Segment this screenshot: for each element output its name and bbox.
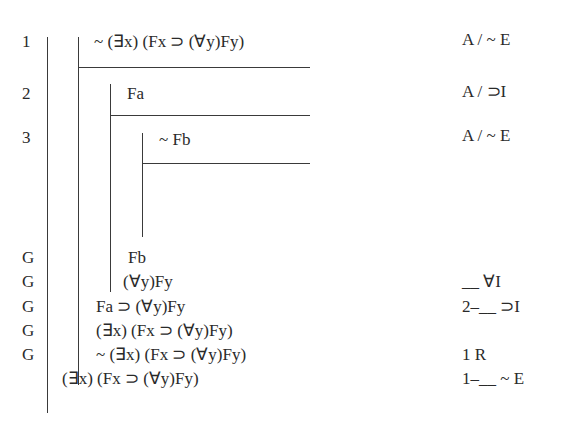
line-number: 2 — [22, 84, 36, 104]
line-number: 3 — [22, 128, 36, 148]
formula: Fa — [127, 84, 144, 104]
conclusion-formula: (∃x) (Fx ⊃ (∀y)Fy) — [62, 369, 199, 389]
justification: A / ⊃I — [462, 82, 506, 102]
formula: ~ Fb — [159, 130, 190, 150]
line-number: G — [22, 297, 36, 317]
formula: ~ (∃x) (Fx ⊃ (∀y)Fy) — [94, 32, 244, 52]
scope-line-sub3 — [142, 133, 143, 237]
justification: A / ~ E — [462, 126, 510, 146]
formula: (∀y)Fy — [123, 272, 173, 292]
line-number: G — [22, 272, 36, 292]
justification: A / ~ E — [462, 30, 510, 50]
justification: 1 R — [462, 345, 486, 365]
line-number: 1 — [22, 32, 36, 52]
formula: Fb — [128, 248, 146, 268]
line-number: G — [22, 248, 36, 268]
scope-line-main — [47, 37, 48, 413]
formula: Fa ⊃ (∀y)Fy — [96, 297, 185, 317]
assumption-bar-3 — [142, 163, 310, 164]
scope-line-sub1 — [78, 37, 79, 385]
justification: 2–__ ⊃I — [462, 297, 520, 317]
justification: __ ∀I — [462, 272, 501, 292]
assumption-bar-2 — [110, 115, 310, 116]
formula: (∃x) (Fx ⊃ (∀y)Fy) — [96, 321, 233, 341]
line-number: G — [22, 321, 36, 341]
line-number: G — [22, 345, 36, 365]
assumption-bar-1 — [78, 67, 310, 68]
formula: ~ (∃x) (Fx ⊃ (∀y)Fy) — [96, 345, 246, 365]
justification: 1–__ ~ E — [462, 369, 524, 389]
derivation-proof: 1 ~ (∃x) (Fx ⊃ (∀y)Fy) A / ~ E 2 Fa A / … — [0, 0, 568, 428]
